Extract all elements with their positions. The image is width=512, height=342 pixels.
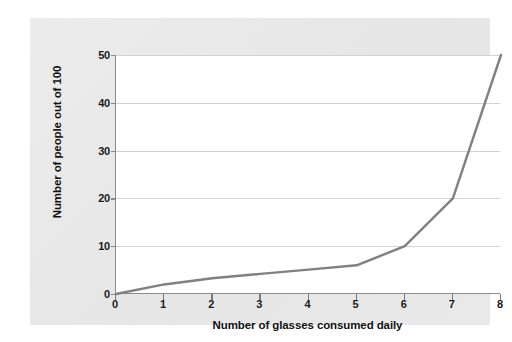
y-tick-mark-40	[111, 103, 116, 104]
y-tick-label-50: 50	[80, 50, 110, 61]
figure-root: Number of people out of 100 01020304050 …	[0, 0, 512, 342]
x-tick-label-0: 0	[103, 299, 127, 310]
y-tick-label-20: 20	[80, 193, 110, 204]
y-axis-title: Number of people out of 100	[51, 42, 63, 242]
x-axis-title: Number of glasses consumed daily	[115, 319, 500, 331]
y-tick-mark-10	[111, 246, 116, 247]
y-tick-mark-50	[111, 55, 116, 56]
y-tick-label-10: 10	[80, 241, 110, 252]
x-tick-label-5: 5	[344, 299, 368, 310]
y-tick-mark-20	[111, 198, 116, 199]
figure-panel: Number of people out of 100 01020304050 …	[30, 18, 490, 325]
x-tick-label-7: 7	[440, 299, 464, 310]
x-tick-label-2: 2	[199, 299, 223, 310]
x-tick-label-3: 3	[247, 299, 271, 310]
x-tick-label-1: 1	[151, 299, 175, 310]
x-tick-label-4: 4	[296, 299, 320, 310]
x-axis-tick-labels: 012345678	[115, 299, 500, 315]
data-line-svg	[116, 55, 501, 294]
x-tick-label-8: 8	[488, 299, 512, 310]
y-axis-tick-labels: 01020304050	[78, 55, 110, 294]
plot-area	[115, 55, 500, 294]
x-tick-label-6: 6	[392, 299, 416, 310]
y-tick-mark-30	[111, 151, 116, 152]
y-tick-label-30: 30	[80, 146, 110, 157]
data-series-line	[116, 55, 501, 294]
y-tick-label-40: 40	[80, 98, 110, 109]
